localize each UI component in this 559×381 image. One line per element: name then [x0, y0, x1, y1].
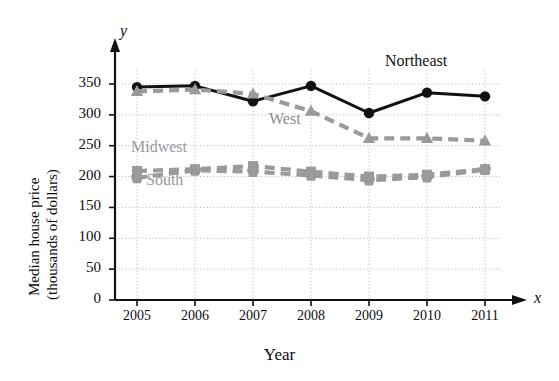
data-point-marker	[305, 105, 317, 116]
data-point-marker	[422, 87, 432, 97]
x-tick-label: 2007	[227, 308, 279, 324]
x-tick-label: 2010	[401, 308, 453, 324]
chart-figure: Median house price (thousands of dollars…	[0, 0, 559, 381]
y-axis-title-line1: Median house price	[26, 178, 43, 296]
y-tick-label: 100	[61, 228, 101, 245]
y-tick-label: 300	[61, 105, 101, 122]
x-axis-letter: x	[534, 289, 541, 307]
x-axis-title: Year	[0, 345, 559, 365]
data-series-layer	[131, 81, 492, 186]
data-point-marker	[480, 91, 490, 101]
x-tick-label: 2005	[111, 308, 163, 324]
y-axis-title-line2: (thousands of dollars)	[44, 169, 61, 300]
series-label-northeast: Northeast	[385, 52, 447, 70]
y-axis-arrowhead	[110, 38, 120, 52]
y-tick-label: 200	[61, 167, 101, 184]
x-tick-label: 2008	[285, 308, 337, 324]
x-tick-label: 2009	[343, 308, 395, 324]
y-tick-label: 0	[61, 290, 101, 307]
data-point-marker	[247, 87, 259, 98]
data-point-marker	[364, 108, 374, 118]
y-axis-letter: y	[120, 22, 127, 40]
y-tick-label: 350	[61, 74, 101, 91]
series-label-midwest: Midwest	[131, 138, 187, 156]
x-axis-arrowhead	[512, 295, 527, 305]
series-label-south: South	[146, 171, 183, 189]
x-tick-label: 2011	[459, 308, 511, 324]
y-tick-label: 50	[61, 259, 101, 276]
x-tick-label: 2006	[169, 308, 221, 324]
y-tick-label: 150	[61, 197, 101, 214]
y-tick-label: 250	[61, 136, 101, 153]
data-point-marker	[306, 81, 316, 91]
series-label-west: West	[269, 110, 301, 128]
